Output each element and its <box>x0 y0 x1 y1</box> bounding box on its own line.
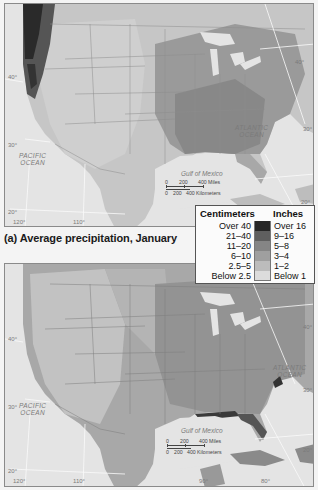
lat-40-label: 40° <box>8 336 17 342</box>
pacific-ocean-label: PACIFICOCEAN <box>19 152 46 166</box>
legend-swatch <box>254 261 271 271</box>
legend-row: Below 2.5 Below 1 <box>196 271 314 281</box>
legend-row: 11–20 5–8 <box>196 241 314 251</box>
lat-20-label: 20° <box>8 468 17 474</box>
legend-swatch <box>254 221 271 231</box>
legend-swatch <box>254 241 271 251</box>
legend-row: 6–10 3–4 <box>196 251 314 261</box>
precipitation-legend: Centimeters Inches Over 40 Over 16 21–40… <box>195 205 315 284</box>
legend-header-inches: Inches <box>273 208 303 219</box>
lon-80-label: 80° <box>261 478 270 484</box>
lon-110-label: 110° <box>73 219 85 225</box>
legend-header-centimeters: Centimeters <box>200 208 255 219</box>
lat-30-east-label: 30° <box>303 387 312 393</box>
atlantic-ocean-label: ATLANTICOCEAN <box>235 124 268 138</box>
lat-40-east-label: 40° <box>303 324 312 330</box>
legend-swatch <box>254 251 271 261</box>
lon-90-label: 90° <box>199 478 208 484</box>
legend-row: 21–40 9–16 <box>196 231 314 241</box>
lat-30-label: 30° <box>8 142 17 148</box>
legend-row: Over 40 Over 16 <box>196 221 314 231</box>
lat-40-east-label: 40° <box>295 59 304 65</box>
lat-20-label: 20° <box>8 209 17 215</box>
lon-120-label: 120° <box>13 219 25 225</box>
gulf-of-mexico-label: Gulf of Mexico <box>181 170 223 177</box>
legend-row: 2.5–5 1–2 <box>196 261 314 271</box>
legend-swatch <box>254 231 271 241</box>
gulf-of-mexico-label: Gulf of Mexico <box>181 427 223 434</box>
map-a-graphic <box>5 4 314 227</box>
lat-30-east-label: 30° <box>303 126 312 132</box>
lat-30-label: 30° <box>8 404 17 410</box>
lon-120-label: 120° <box>13 478 25 484</box>
map-precipitation-b: ATLANTICOCEAN PACIFICOCEAN Gulf of Mexic… <box>4 263 314 487</box>
pacific-ocean-label: PACIFICOCEAN <box>19 402 46 416</box>
map-january-precipitation: ATLANTICOCEAN PACIFICOCEAN Gulf of Mexic… <box>4 3 314 227</box>
map-b-graphic <box>5 264 314 487</box>
map-scale: 0 200 400 Miles 0 200 400 Kilometers <box>165 179 245 199</box>
caption-january: (a) Average precipitation, January <box>4 232 177 244</box>
map-scale: 0 200 400 Miles 0 200 400 Kilometers <box>166 438 246 458</box>
lon-110-label: 110° <box>73 478 85 484</box>
atlantic-ocean-label: ATLANTICOCEAN <box>273 364 306 378</box>
lat-20-east-label: 20° <box>303 447 312 453</box>
legend-swatch <box>254 271 271 281</box>
lat-40-label: 40° <box>8 74 17 80</box>
